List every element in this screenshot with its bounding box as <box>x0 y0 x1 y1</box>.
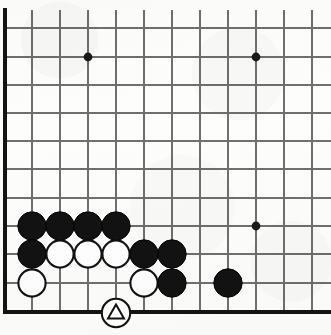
white-stone[interactable] <box>130 269 157 296</box>
star-point-icon <box>252 222 261 231</box>
black-stone[interactable] <box>102 212 130 240</box>
white-stone[interactable] <box>18 269 45 296</box>
black-stone[interactable] <box>214 269 242 297</box>
white-stone[interactable] <box>46 240 73 267</box>
black-stone[interactable] <box>158 240 186 268</box>
triangle-marked-white-stone[interactable] <box>102 299 130 327</box>
black-stone[interactable] <box>18 240 46 268</box>
black-stone[interactable] <box>130 240 158 268</box>
black-stone[interactable] <box>46 212 74 240</box>
black-stone[interactable] <box>158 269 186 297</box>
black-stone[interactable] <box>18 212 46 240</box>
star-point-icon <box>84 53 93 62</box>
white-stone[interactable] <box>102 240 129 267</box>
star-point-icon <box>252 53 261 62</box>
black-stone[interactable] <box>74 212 102 240</box>
go-board-canvas[interactable] <box>0 0 331 335</box>
go-board-diagram <box>0 0 331 335</box>
white-stone[interactable] <box>74 240 101 267</box>
